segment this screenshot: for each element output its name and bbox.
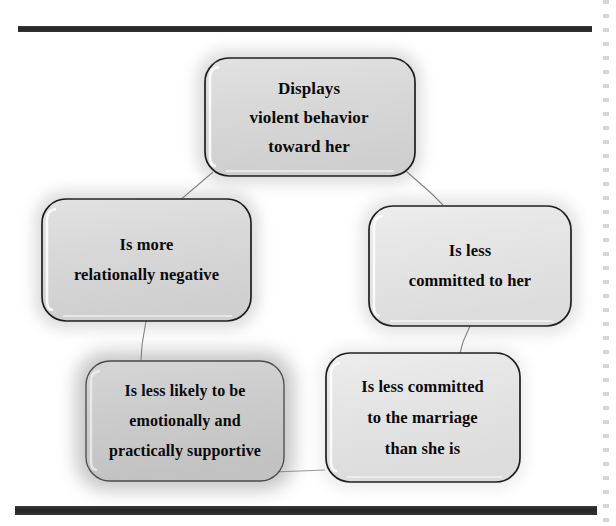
node-unsupportive[interactable] xyxy=(86,361,284,481)
bottom-horizontal-rule xyxy=(15,506,597,515)
cycle-diagram xyxy=(0,0,616,526)
node-uncommitted-marriage[interactable] xyxy=(326,353,520,482)
node-negative[interactable] xyxy=(42,199,251,321)
scanned-figure-page: Displays violent behavior toward her Is … xyxy=(0,0,616,526)
node-uncommitted-her[interactable] xyxy=(369,206,571,326)
scan-edge-artifact xyxy=(603,0,609,526)
node-violence[interactable] xyxy=(205,58,415,176)
